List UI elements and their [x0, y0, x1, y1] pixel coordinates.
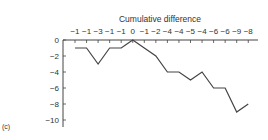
- top-label: −4: [197, 27, 207, 36]
- y-tick-label: −4: [50, 68, 60, 77]
- y-tick-label: −10: [45, 116, 59, 125]
- top-label: −1: [117, 27, 127, 36]
- top-label: −4: [174, 27, 184, 36]
- top-label: −1: [105, 27, 115, 36]
- top-label: −6: [209, 27, 219, 36]
- top-label: −4: [163, 27, 173, 36]
- chart: Cumulative difference −1−1−3−1−10−1−2−4−…: [0, 0, 268, 140]
- top-label: −8: [244, 27, 254, 36]
- top-label: −5: [186, 27, 196, 36]
- top-label: −9: [232, 27, 242, 36]
- top-label: 0: [131, 27, 136, 36]
- chart-title: Cumulative difference: [119, 14, 201, 24]
- top-label: −6: [221, 27, 231, 36]
- top-label: −1: [70, 27, 80, 36]
- panel-label: (c): [2, 123, 10, 131]
- top-label: −2: [151, 27, 161, 36]
- y-tick-label: −6: [50, 84, 60, 93]
- y-tick-label: 0: [55, 36, 60, 45]
- top-label: −1: [140, 27, 150, 36]
- series-line: [75, 40, 248, 112]
- top-label: −3: [94, 27, 104, 36]
- y-tick-label: −2: [50, 52, 60, 61]
- y-tick-label: −8: [50, 100, 60, 109]
- top-labels: −1−1−3−1−10−1−2−4−4−5−4−6−6−9−8: [70, 27, 253, 36]
- top-label: −1: [82, 27, 92, 36]
